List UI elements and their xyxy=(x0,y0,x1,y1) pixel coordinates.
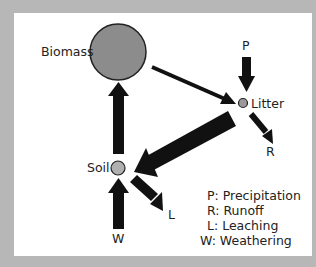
flow-label-l: L xyxy=(168,207,175,222)
arrow-soil-to-biomass xyxy=(108,82,129,154)
legend-item: R: Runoff xyxy=(207,203,264,218)
legend: P: Precipitation R: Runoff L: Leaching W… xyxy=(200,188,301,248)
nutrient-cycle-diagram: Biomass Litter Soil P R L W P: Precipita… xyxy=(0,0,316,267)
arrow-litter-to-soil xyxy=(134,111,236,177)
soil-label: Soil xyxy=(87,160,110,175)
arrow-precipitation xyxy=(238,57,255,92)
arrow-weathering xyxy=(108,178,129,229)
flow-label-p: P xyxy=(242,38,250,53)
legend-item: W: Weathering xyxy=(200,233,292,248)
flow-label-r: R xyxy=(266,144,275,159)
biomass-node xyxy=(90,24,146,80)
litter-label: Litter xyxy=(251,96,285,111)
biomass-label: Biomass xyxy=(41,44,94,59)
soil-node xyxy=(111,161,125,175)
arrow-leaching xyxy=(130,175,163,211)
litter-node xyxy=(239,99,248,108)
flow-label-w: W xyxy=(112,231,124,246)
legend-item: L: Leaching xyxy=(207,218,278,233)
arrow-biomass-to-litter xyxy=(152,67,236,104)
legend-item: P: Precipitation xyxy=(207,188,301,203)
arrow-runoff xyxy=(251,114,273,144)
